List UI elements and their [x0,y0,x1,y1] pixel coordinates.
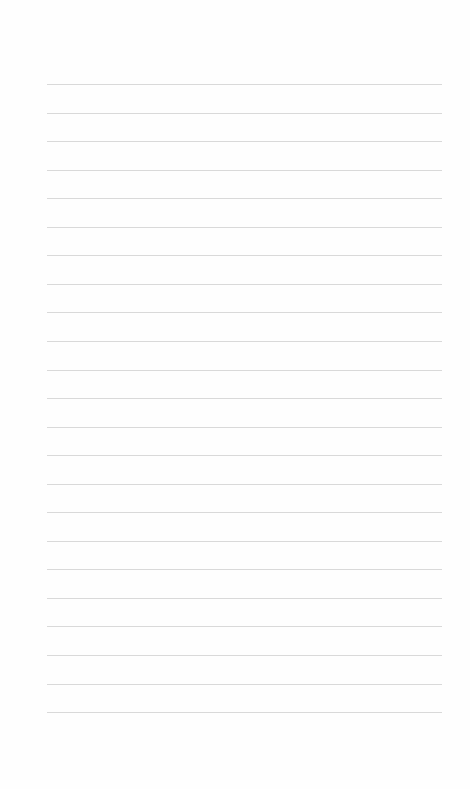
lined-paper [0,0,470,789]
ruled-line [47,598,442,599]
ruled-line [47,541,442,542]
ruled-line [47,255,442,256]
ruled-line [47,312,442,313]
ruled-line [47,370,442,371]
ruled-line [47,198,442,199]
ruled-line [47,113,442,114]
ruled-line [47,227,442,228]
ruled-line [47,455,442,456]
ruled-line [47,427,442,428]
ruled-line [47,684,442,685]
ruled-line [47,484,442,485]
ruled-line [47,84,442,85]
ruled-line [47,284,442,285]
ruled-line [47,398,442,399]
ruled-line [47,512,442,513]
ruled-line [47,655,442,656]
ruled-line [47,170,442,171]
ruled-line [47,569,442,570]
ruled-line [47,141,442,142]
ruled-line [47,712,442,713]
ruled-line [47,626,442,627]
ruled-line [47,341,442,342]
